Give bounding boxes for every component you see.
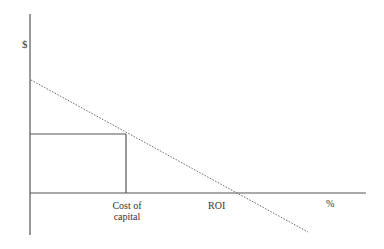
cost-of-capital-label: Cost of capital (106, 200, 148, 222)
roi-label: ROI (208, 200, 225, 211)
cost-of-capital-line2: capital (106, 211, 148, 222)
diagram-canvas (0, 0, 384, 249)
cost-of-capital-line1: Cost of (106, 200, 148, 211)
y-axis-label: $ (22, 39, 28, 50)
return-curve-dotted-line (31, 80, 308, 232)
x-axis-label: % (326, 198, 334, 209)
